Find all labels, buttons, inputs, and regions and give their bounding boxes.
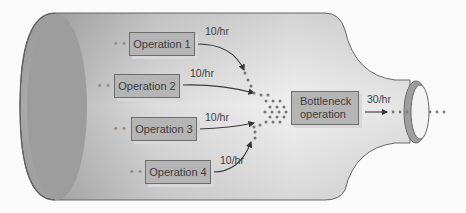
operation-2-box: Operation 2 — [114, 74, 180, 98]
lead-dots-4: • • — [130, 166, 143, 177]
operation-1-rate: 10/hr — [205, 25, 229, 37]
bottleneck-operation-box: Bottleneck operation — [291, 91, 359, 125]
operation-3-box: Operation 3 — [131, 117, 197, 141]
operation-4-rate: 10/hr — [220, 154, 244, 166]
lead-dots-1: • • — [114, 38, 127, 49]
bottle-diagram — [0, 0, 466, 213]
bottleneck-output-rate: 30/hr — [367, 93, 391, 105]
operation-3-rate: 10/hr — [205, 111, 229, 123]
operation-2-rate: 10/hr — [190, 67, 214, 79]
lead-dots-3: • • — [114, 123, 127, 134]
operation-1-box: Operation 1 — [129, 32, 195, 56]
operation-4-box: Operation 4 — [145, 160, 211, 184]
lead-dots-2: • • — [98, 80, 111, 91]
